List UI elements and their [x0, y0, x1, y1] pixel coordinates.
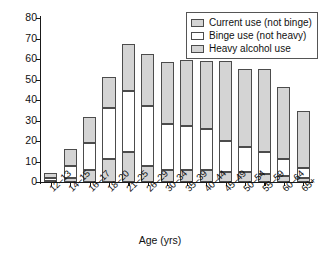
legend-label: Binge use (not heavy)	[209, 30, 306, 42]
chart-root: Percent using in past month 010203040506…	[0, 0, 320, 253]
bar-segment-binge	[122, 91, 135, 153]
bar-segment-binge	[180, 126, 193, 170]
y-tick-label: 30	[25, 114, 37, 127]
bar-segment-current	[219, 61, 232, 141]
bar-segment-current	[83, 117, 96, 143]
y-tick-label: 20	[25, 134, 37, 147]
legend-swatch-icon	[191, 32, 204, 40]
legend-item: Current use (not binge)	[191, 16, 312, 29]
bar-segment-current	[200, 61, 213, 129]
bar-segment-binge	[102, 108, 115, 159]
bar-segment-binge	[219, 141, 232, 172]
y-tick-label: 80	[25, 11, 37, 24]
bar-segment-current	[161, 62, 174, 124]
legend-item: Heavy alcohol use	[191, 42, 312, 55]
bar	[238, 69, 251, 182]
y-tick-label: 70	[25, 32, 37, 45]
bar-segment-current	[238, 69, 251, 147]
bar	[258, 69, 271, 182]
legend: Current use (not binge)Binge use (not he…	[186, 12, 318, 59]
bar	[141, 54, 154, 182]
legend-swatch-icon	[191, 19, 204, 27]
y-tick-label: 40	[25, 93, 37, 106]
bar	[122, 44, 135, 182]
bar-segment-current	[141, 54, 154, 106]
bar-segment-current	[297, 111, 310, 167]
y-tick-label: 60	[25, 52, 37, 65]
legend-label: Heavy alcohol use	[209, 43, 291, 55]
bar	[200, 61, 213, 182]
bar	[180, 60, 193, 182]
bar-segment-current	[277, 87, 290, 160]
bar-segment-current	[64, 149, 77, 165]
bar-segment-current	[122, 44, 135, 91]
x-axis-title: Age (yrs)	[0, 234, 320, 246]
bar-segment-current	[258, 69, 271, 152]
bar-segment-binge	[83, 143, 96, 170]
y-tick-label: 0	[31, 175, 37, 188]
legend-swatch-icon	[191, 45, 204, 53]
bar-segment-current	[180, 60, 193, 126]
y-tick-label: 50	[25, 73, 37, 86]
legend-label: Current use (not binge)	[209, 17, 312, 29]
bar-segment-binge	[141, 106, 154, 165]
bar	[102, 77, 115, 182]
bar-segment-binge	[161, 124, 174, 170]
bar	[161, 62, 174, 182]
bar	[219, 61, 232, 182]
legend-item: Binge use (not heavy)	[191, 29, 312, 42]
bar-segment-binge	[200, 129, 213, 170]
bar-segment-current	[102, 77, 115, 108]
y-tick-label: 10	[25, 155, 37, 168]
